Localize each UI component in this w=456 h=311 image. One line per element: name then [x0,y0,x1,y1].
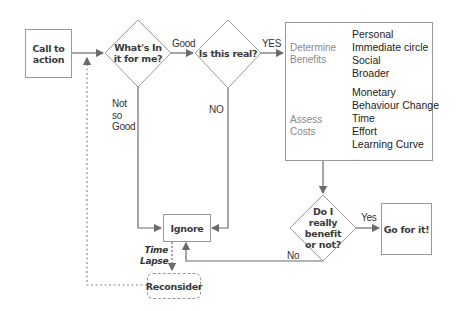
reconsider-label: Reconsider [146,281,203,292]
benefit-item: Broader [352,67,428,80]
determine-benefits-label: Determine Benefits [290,42,336,65]
node-whats-in-it: What's In it for me? [108,38,168,68]
costs-list: Monetary Behaviour Change Time Effort Le… [352,86,439,164]
edge-label-not-so-good: Not so Good [112,98,138,133]
benefit-item: Social [352,54,428,67]
node-ignore: Ignore [163,214,211,242]
benefit-item: Personal [352,28,428,41]
do-i-benefit-label: Do I really benefit or not? [299,206,347,250]
cost-item: Time [352,112,439,125]
node-do-i-benefit: Do I really benefit or not? [297,210,349,246]
edge-label-yes: Yes [361,212,376,224]
cost-item: Monetary [352,86,439,99]
cost-item: Learning Curve [352,138,439,151]
cost-item: Effort [352,125,439,138]
is-this-real-label: Is this real? [199,48,257,59]
node-reconsider: Reconsider [147,273,201,299]
node-call-to-action: Call to action [25,29,72,78]
benefits-list: Personal Immediate circle Social Broader [352,28,428,80]
call-to-action-label: Call to action [31,43,67,65]
edge-label-time-lapse: Time Lapse [140,245,168,267]
node-is-this-real: Is this real? [198,45,258,61]
edge-label-no-upper: NO [209,104,223,116]
cost-item: ... [352,151,439,164]
edge-label-no: No [287,250,299,262]
edge-label-yes-upper: YES [262,38,281,50]
node-go-for-it: Go for it! [381,203,432,255]
assess-costs-label: Assess Costs [290,114,330,137]
benefit-item: Immediate circle [352,41,428,54]
whats-in-it-label: What's In it for me? [112,42,164,64]
edge-label-good: Good [172,38,195,50]
ignore-label: Ignore [171,223,204,234]
cost-item: Behaviour Change [352,99,439,112]
go-for-it-label: Go for it! [384,224,429,235]
